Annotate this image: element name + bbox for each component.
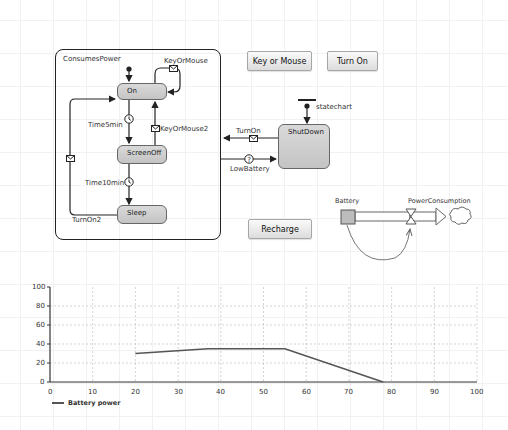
x-tick-label: 0 (48, 388, 52, 396)
chart-plot-area (0, 0, 508, 430)
x-tick-label: 60 (302, 388, 311, 396)
y-tick-label: 20 (36, 359, 45, 367)
y-tick-label: 0 (40, 378, 44, 386)
x-tick-label: 50 (259, 388, 268, 396)
x-tick-label: 40 (216, 388, 225, 396)
y-tick-label: 100 (32, 283, 45, 291)
x-tick-label: 80 (387, 388, 396, 396)
y-tick-label: 60 (36, 321, 45, 329)
x-tick-label: 10 (88, 388, 97, 396)
x-tick-label: 70 (344, 388, 353, 396)
chart-legend: Battery power (52, 399, 120, 407)
x-tick-label: 90 (430, 388, 439, 396)
x-tick-label: 20 (131, 388, 140, 396)
legend-swatch (52, 402, 64, 404)
x-tick-label: 30 (174, 388, 183, 396)
x-tick-label: 100 (470, 388, 483, 396)
y-tick-label: 40 (36, 340, 45, 348)
y-tick-label: 80 (36, 302, 45, 310)
series-line-battery-power (135, 349, 383, 382)
legend-label: Battery power (68, 399, 120, 407)
